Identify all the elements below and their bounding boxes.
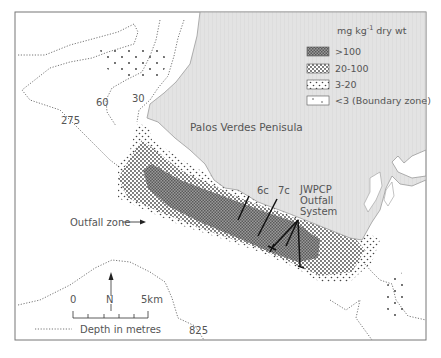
label-outfall: Outfall xyxy=(300,195,333,206)
label-jwpcp: JWPCP xyxy=(299,184,332,195)
legend-label-over-100: >100 xyxy=(335,46,361,57)
depth-label-30: 30 xyxy=(132,93,145,104)
label-outfall-zone: Outfall zone xyxy=(70,217,130,228)
contamination-map: Palos Verdes Penisula Outfall zone 6c 7c… xyxy=(0,0,441,358)
depth-key-label: Depth in metres xyxy=(80,324,161,335)
scale-start-label: 0 xyxy=(70,294,76,305)
depth-label-825: 825 xyxy=(189,325,208,336)
legend-label-3-20: 3-20 xyxy=(335,79,357,90)
north-label: N xyxy=(106,294,113,305)
label-palos-verdes: Palos Verdes Penisula xyxy=(190,121,303,133)
label-station-6c: 6c xyxy=(257,185,269,196)
legend-label-boundary: <3 (Boundary zone) xyxy=(335,95,431,106)
legend-swatch-boundary xyxy=(307,96,329,105)
depth-label-60: 60 xyxy=(96,97,109,108)
legend-swatch-3-20 xyxy=(307,80,329,89)
scale-end-label: 5km xyxy=(141,294,163,305)
legend-swatch-20-100 xyxy=(307,64,329,73)
depth-label-275: 275 xyxy=(61,115,80,126)
label-station-7c: 7c xyxy=(278,185,290,196)
legend-swatch-over-100 xyxy=(307,47,329,56)
label-system: System xyxy=(300,206,337,217)
legend-label-20-100: 20-100 xyxy=(335,63,369,74)
